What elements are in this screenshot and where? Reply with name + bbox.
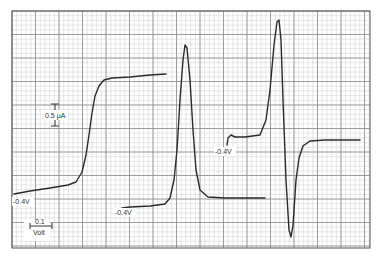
chart-frame [12, 11, 370, 248]
current-scale-bar: 0.5 μA [44, 104, 68, 126]
start-potential-labels: -0.4V -0.4V -0.4V [12, 147, 236, 217]
trace-2 [119, 45, 265, 216]
trace-1 [14, 74, 166, 194]
voltage-scale-bar: 0.1 Volt [24, 218, 52, 241]
major-grid [12, 11, 370, 248]
start-label-3: -0.4V [215, 148, 232, 155]
chart-canvas: 0.5 μA 0.1 Volt -0.4V -0.4V -0.4V [0, 0, 378, 258]
start-label-1: -0.4V [13, 198, 30, 205]
current-scale-label: 0.5 μA [45, 112, 66, 120]
minor-grid [12, 11, 370, 248]
voltage-scale-unit: Volt [33, 229, 45, 236]
start-label-2: -0.4V [115, 209, 132, 216]
voltage-scale-value: 0.1 [35, 218, 45, 225]
